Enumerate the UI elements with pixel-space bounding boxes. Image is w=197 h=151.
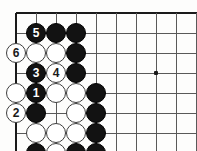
stone-move-number: 5: [33, 27, 40, 39]
stone-black-b5[interactable]: [86, 83, 106, 103]
go-board-diagram: 563412: [0, 0, 197, 151]
stone-white-move-4[interactable]: 4: [46, 63, 66, 83]
stone-white-move-6[interactable]: 6: [6, 43, 26, 63]
stone-white-w1[interactable]: [26, 43, 46, 63]
stone-move-number: 6: [13, 47, 20, 59]
stone-black-move-5[interactable]: 5: [26, 23, 46, 43]
star-point-4-4: [154, 71, 158, 75]
grid-line-vertical: [176, 13, 177, 151]
stone-white-w5[interactable]: [66, 83, 86, 103]
stone-black-b3[interactable]: [66, 43, 86, 63]
stone-white-w4[interactable]: [46, 83, 66, 103]
stone-black-b7[interactable]: [86, 103, 106, 123]
stone-move-number: 1: [33, 87, 40, 99]
stone-move-number: 3: [33, 67, 40, 79]
board-top-edge-line: [16, 12, 197, 14]
stone-black-b8[interactable]: [86, 123, 106, 143]
stone-black-move-3[interactable]: 3: [26, 63, 46, 83]
stone-move-number: 2: [13, 107, 20, 119]
stone-white-w6[interactable]: [66, 103, 86, 123]
grid-line-vertical: [196, 13, 197, 151]
stone-black-b2[interactable]: [66, 23, 86, 43]
stone-white-w9[interactable]: [66, 123, 86, 143]
stone-white-w8[interactable]: [46, 123, 66, 143]
stone-white-w7[interactable]: [26, 123, 46, 143]
stone-white-w2[interactable]: [46, 43, 66, 63]
stone-white-w3[interactable]: [6, 83, 26, 103]
stone-black-b1[interactable]: [46, 23, 66, 43]
stone-move-number: 4: [53, 67, 60, 79]
board-left-edge-line: [15, 13, 17, 151]
stone-black-move-1[interactable]: 1: [26, 83, 46, 103]
stone-white-move-2[interactable]: 2: [6, 103, 26, 123]
stone-black-b6[interactable]: [26, 103, 46, 123]
stone-black-b4[interactable]: [66, 63, 86, 83]
grid-line-vertical: [116, 13, 117, 151]
grid-line-vertical: [156, 13, 157, 151]
grid-line-vertical: [136, 13, 137, 151]
